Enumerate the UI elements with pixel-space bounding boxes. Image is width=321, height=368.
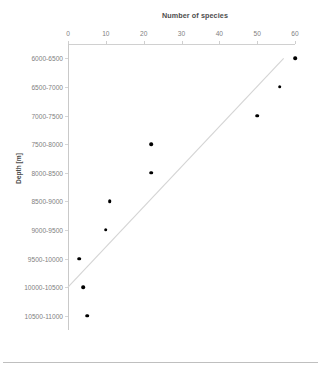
x-axis-tick-label: 20 xyxy=(129,30,159,37)
x-axis-tick-label: 10 xyxy=(91,30,121,37)
scatter-chart-figure: Number of species Depth [m] 010203040506… xyxy=(0,0,321,368)
x-axis-tick xyxy=(295,41,296,44)
x-axis-tick-label: 30 xyxy=(167,30,197,37)
y-axis-tick-label: 7500-8000 xyxy=(1,141,63,148)
y-axis-tick-label: 8500-9000 xyxy=(1,198,63,205)
trendline xyxy=(68,44,295,330)
y-axis-tick-label: 9000-9500 xyxy=(1,226,63,233)
y-axis-tick-label: 10000-10500 xyxy=(1,284,63,291)
y-axis-tick-label: 6500-7000 xyxy=(1,83,63,90)
data-point xyxy=(149,171,153,175)
data-point xyxy=(255,114,259,118)
y-axis-tick-label: 8000-8500 xyxy=(1,169,63,176)
data-point xyxy=(278,85,282,89)
y-axis-tick-label: 7000-7500 xyxy=(1,112,63,119)
data-point xyxy=(85,314,89,318)
y-axis-tick-label: 6000-6500 xyxy=(1,55,63,62)
data-point xyxy=(108,200,112,204)
chart-title: Number of species xyxy=(120,11,270,20)
data-point xyxy=(104,228,108,232)
y-axis-tick-label: 9500-10000 xyxy=(1,255,63,262)
data-point xyxy=(293,57,297,61)
x-axis-tick-label: 40 xyxy=(204,30,234,37)
x-axis-tick-label: 60 xyxy=(280,30,310,37)
data-point xyxy=(81,285,85,289)
data-point xyxy=(149,142,153,146)
plot-area: 0102030405060 6000-65006500-70007000-750… xyxy=(68,44,295,330)
x-axis-tick-label: 0 xyxy=(53,30,83,37)
x-axis-tick-label: 50 xyxy=(242,30,272,37)
footer-divider xyxy=(3,362,318,363)
data-point xyxy=(78,257,82,261)
y-axis-tick-label: 10500-11000 xyxy=(1,312,63,319)
